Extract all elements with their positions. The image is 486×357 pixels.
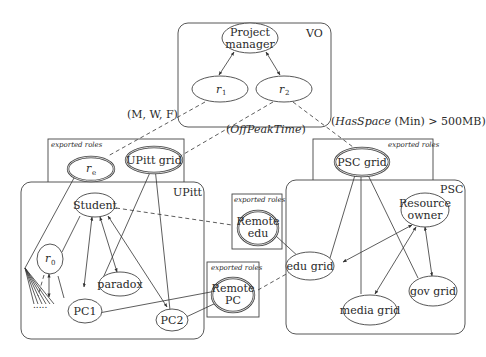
pc1-label: PC1: [74, 305, 97, 318]
re-sub: e: [92, 169, 96, 177]
resource-owner-line2: owner: [408, 209, 444, 222]
remote-pc-exported-roles-label: exported roles: [211, 264, 263, 272]
rbac-federation-diagram: VO exported roles UPitt exported roles P…: [0, 0, 486, 357]
vo-label: VO: [305, 27, 323, 40]
pc2-label: PC2: [161, 314, 184, 327]
edu-grid-label: edu grid: [287, 260, 334, 273]
annotation-offpeak: (OffPeakTime): [226, 123, 306, 136]
gov-grid-label: gov grid: [410, 285, 456, 298]
psc-label: PSC: [440, 183, 463, 196]
ellipsis-text: .....: [33, 300, 47, 310]
r2-sub: 2: [285, 89, 289, 97]
remote-edu-line2: edu: [248, 227, 269, 240]
student-label: Student: [73, 199, 118, 212]
upitt-exported-roles-label: exported roles: [51, 141, 103, 149]
psc-grid-label: PSC grid: [337, 156, 387, 169]
upitt-label: UPitt: [173, 186, 203, 199]
remote-pc-line2: PC: [225, 294, 241, 307]
r1-sub: 1: [222, 89, 226, 97]
annotation-mwf: (M, W, F): [127, 108, 178, 121]
paradox-label: paradox: [97, 278, 143, 291]
annotation-hasspace: (HasSpace (Min) > 500MB): [331, 115, 486, 128]
remote-edu-exported-roles-label: exported roles: [234, 196, 286, 204]
media-grid-label: media grid: [340, 304, 400, 317]
upitt-grid-label: UPitt grid: [126, 154, 181, 167]
r0-sub: 0: [51, 259, 55, 267]
psc-exported-roles-label: exported roles: [388, 141, 440, 149]
project-manager-line2: manager: [225, 38, 275, 51]
